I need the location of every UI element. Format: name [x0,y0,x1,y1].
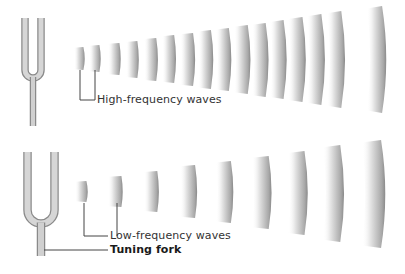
wavefront [216,28,231,91]
wavefront [270,20,287,99]
tuning-fork-top-illustration [25,18,41,126]
wavefront [180,165,197,218]
low-frequency-waves-label: Low-frequency waves [110,230,231,242]
wavefront [307,14,325,105]
wavefront [252,156,272,229]
wavefront [126,41,139,78]
wavefront [362,140,385,248]
wavefront [108,43,121,75]
tuning-fork-label: Tuning fork [110,244,181,256]
high-frequency-waves-label: High-frequency waves [97,94,222,106]
wavefront [162,35,176,83]
wavefront [367,6,386,113]
wavefront [144,171,159,212]
wavefront [323,145,344,242]
wavefront [288,17,306,102]
wavefront [234,25,250,94]
wavefront [75,181,88,202]
wavefront [89,45,101,72]
wavefront [252,23,269,97]
wavefront [144,38,158,81]
wavefront [327,11,345,108]
wavefront [198,30,213,89]
wavefront [216,161,233,223]
tuning-fork-bottom-illustration [28,152,55,256]
wavefront [288,151,308,235]
wavefront [180,33,195,86]
wavefront [74,47,85,70]
wavefront [108,176,123,207]
diagram-canvas: High-frequency waves Low-frequency waves… [0,0,405,274]
